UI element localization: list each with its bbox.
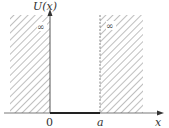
left-infinity-label: ∞ (37, 22, 45, 32)
x-axis-arrow-icon (157, 111, 164, 116)
x-axis-label: x (155, 116, 162, 128)
origin-label: 0 (46, 116, 53, 128)
potential-well-diagram: U(x) x 0 a ∞ ∞ (0, 0, 169, 128)
right-infinity-label: ∞ (106, 21, 114, 31)
well-edge-label: a (97, 116, 104, 128)
y-axis-label: U(x) (33, 0, 57, 13)
